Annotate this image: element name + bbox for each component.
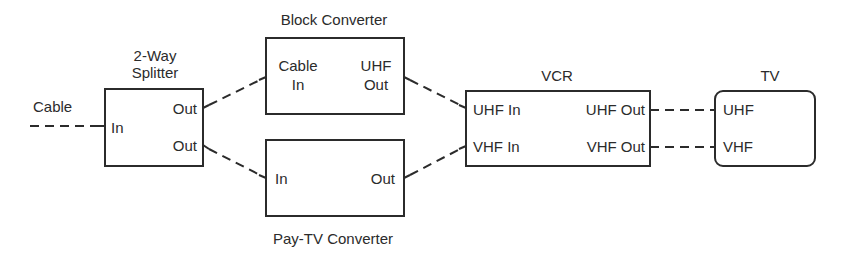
block-converter-out-line2: Out [364,76,388,94]
splitter-out2-port: Out [173,137,197,155]
block-converter-in-line1: Cable [278,57,317,75]
paytv-converter-title: Pay-TV Converter [273,230,393,248]
paytv-in-tick [259,175,266,178]
diagram-canvas [0,0,844,257]
splitter-title-line1: 2-Way [134,47,177,65]
block-converter-out-line1: UHF [361,57,392,75]
splitter-in-port: In [111,119,124,137]
block-in-tick [259,77,266,80]
paytv-in-port: In [275,170,288,188]
wire-splitter-to-block [209,80,260,105]
wire-block-to-vcr [410,80,460,105]
tv-title: TV [760,67,779,85]
tv-vhf-port: VHF [723,138,753,156]
vcr-vhf-out-port: VHF Out [587,138,645,156]
block-converter-in-line2: In [292,76,305,94]
splitter-out1-port: Out [173,100,197,118]
paytv-out-port: Out [371,170,395,188]
tv-uhf-port: UHF [723,101,754,119]
vcr-title: VCR [541,67,573,85]
wire-paytv-to-vcr [410,149,460,175]
splitter-title-line2: Splitter [132,64,179,82]
vcr-vhf-in-port: VHF In [473,138,520,156]
vcr-uhf-in-tick [459,105,466,108]
wire-splitter-to-paytv [209,149,260,175]
vcr-uhf-out-port: UHF Out [586,101,645,119]
cable-input-label: Cable [33,98,72,116]
vcr-vhf-in-tick [459,146,466,149]
block-converter-title: Block Converter [281,11,388,29]
vcr-uhf-in-port: UHF In [473,101,521,119]
